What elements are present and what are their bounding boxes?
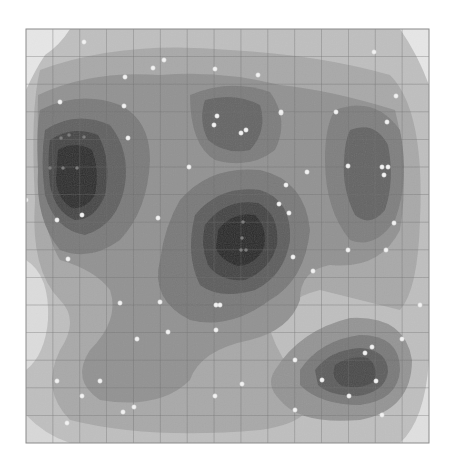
data-point <box>347 394 351 398</box>
data-point <box>239 131 243 135</box>
data-point <box>400 337 404 341</box>
data-point <box>334 110 338 114</box>
data-point <box>66 257 70 261</box>
data-point <box>305 170 309 174</box>
data-point <box>212 123 216 127</box>
data-point <box>279 110 283 114</box>
data-point <box>123 75 127 79</box>
data-point <box>214 303 218 307</box>
data-point <box>151 66 155 70</box>
data-point <box>240 236 244 240</box>
data-point <box>380 165 384 169</box>
data-point <box>240 382 244 386</box>
data-point <box>418 303 422 307</box>
data-point <box>372 50 376 54</box>
data-point <box>82 40 86 44</box>
data-point <box>156 216 160 220</box>
data-point <box>284 183 288 187</box>
data-point <box>55 379 59 383</box>
data-point <box>67 133 71 137</box>
data-point <box>320 378 324 382</box>
contour-bands <box>26 29 429 443</box>
data-point <box>370 345 374 349</box>
data-point <box>166 330 170 334</box>
data-point <box>382 173 386 177</box>
data-point <box>126 136 130 140</box>
data-point <box>118 301 122 305</box>
data-point <box>256 73 260 77</box>
data-point <box>293 408 297 412</box>
data-point <box>218 303 222 307</box>
data-point <box>132 405 136 409</box>
plot-area <box>24 29 429 443</box>
data-point <box>213 394 217 398</box>
data-point <box>121 410 125 414</box>
data-point <box>244 128 248 132</box>
data-point <box>277 202 281 206</box>
data-point <box>346 164 350 168</box>
data-point <box>213 67 217 71</box>
data-point <box>61 166 65 170</box>
data-point <box>392 221 396 225</box>
data-point <box>75 166 79 170</box>
data-point <box>311 269 315 273</box>
data-point <box>82 135 86 139</box>
data-point <box>135 337 139 341</box>
data-point <box>287 211 291 215</box>
data-point <box>239 248 243 252</box>
data-point <box>241 220 245 224</box>
data-point <box>346 248 350 252</box>
data-point <box>55 218 59 222</box>
data-point <box>48 166 52 170</box>
data-point <box>374 379 378 383</box>
data-point <box>385 120 389 124</box>
data-point <box>122 104 126 108</box>
data-point <box>158 300 162 304</box>
data-point <box>187 165 191 169</box>
density-contour-chart <box>0 0 458 471</box>
data-point <box>59 136 63 140</box>
data-point <box>380 413 384 417</box>
data-point <box>214 328 218 332</box>
data-point <box>384 248 388 252</box>
data-point <box>394 94 398 98</box>
data-point <box>363 351 367 355</box>
data-point <box>80 213 84 217</box>
data-point <box>162 58 166 62</box>
data-point <box>65 421 69 425</box>
data-point <box>244 248 248 252</box>
data-point <box>98 379 102 383</box>
data-point <box>215 114 219 118</box>
data-point <box>291 255 295 259</box>
data-point <box>293 358 297 362</box>
data-point <box>80 394 84 398</box>
data-point <box>58 100 62 104</box>
data-point <box>386 165 390 169</box>
contour-band-6 <box>56 145 97 208</box>
